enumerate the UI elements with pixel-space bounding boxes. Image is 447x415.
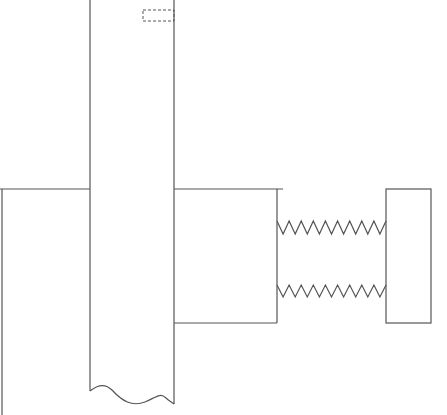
springs	[277, 221, 386, 297]
shaft	[90, 0, 174, 404]
left-plate	[0, 189, 90, 415]
break-line	[90, 385, 174, 404]
center-block	[174, 189, 283, 323]
key-slot-hidden-line	[143, 10, 174, 21]
end-stop-block	[386, 189, 431, 323]
mechanism-diagram	[0, 0, 447, 415]
upper-spring	[277, 221, 386, 234]
lower-spring	[277, 285, 386, 297]
